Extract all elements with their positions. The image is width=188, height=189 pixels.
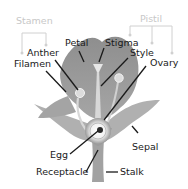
filament-label: Filamen — [14, 58, 51, 69]
pistil-group-label: Pistil — [140, 13, 162, 24]
anther-right — [115, 74, 123, 82]
stalk — [92, 140, 104, 182]
flower-diagram: Stamen Pistil Petal Stigma Anther Style … — [0, 0, 188, 189]
egg-label: Egg — [50, 149, 68, 160]
ovary-label: Ovary — [150, 57, 179, 68]
receptacle-label: Receptacle — [36, 166, 89, 177]
petal-label: Petal — [65, 37, 88, 48]
anther-label: Anther — [27, 47, 59, 58]
stamen-group-label: Stamen — [16, 15, 53, 26]
petal-lobe-left — [38, 96, 76, 118]
anther — [76, 89, 85, 98]
egg — [97, 127, 103, 133]
sepal-label: Sepal — [132, 141, 158, 152]
stalk-label: Stalk — [120, 166, 144, 177]
sepal-leader — [132, 126, 138, 133]
